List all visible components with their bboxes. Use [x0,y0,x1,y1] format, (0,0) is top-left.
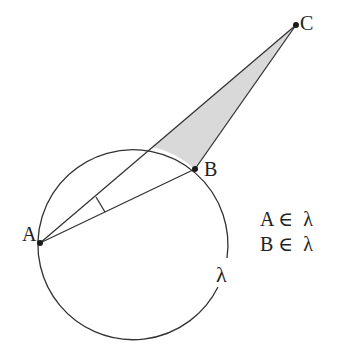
circle-lambda [38,150,228,340]
angle-marker [96,197,105,212]
label-lambda: λ [216,262,227,287]
label-B: B [204,158,217,180]
annotation-B-in-lambda: B ∈ λ [260,233,313,255]
line-AC [40,25,296,243]
point-A [37,240,43,246]
shaded-region [153,25,296,169]
geometry-diagram: A B C λ A ∈ λ B ∈ λ [0,0,354,348]
line-BC [195,25,296,169]
label-A: A [22,223,37,245]
point-C [293,22,299,28]
label-C: C [300,12,313,34]
annotation-A-in-lambda: A ∈ λ [260,208,313,230]
point-B [192,166,198,172]
